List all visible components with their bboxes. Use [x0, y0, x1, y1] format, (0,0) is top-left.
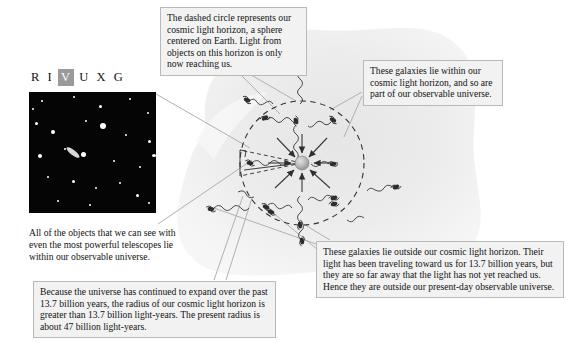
figure-canvas: R I V U X G The dashed cir [0, 0, 577, 343]
callout-galaxies-inside-horizon: These galaxies lie within our cosmic lig… [363, 60, 503, 106]
wavelength-band-rivuxg: R I V U X G [29, 69, 126, 86]
band-letter-u: U [77, 70, 91, 85]
callout-cosmic-light-horizon: The dashed circle represents our cosmic … [160, 7, 307, 76]
deep-field-photo [29, 92, 156, 213]
callout-universe-expansion: Because the universe has continued to ex… [33, 281, 276, 338]
band-letter-v-highlighted: V [58, 69, 74, 86]
callout-galaxies-outside-horizon: These galaxies lie outside our cosmic li… [316, 241, 564, 298]
band-letter-x: X [94, 70, 108, 85]
band-letter-r: R [29, 70, 43, 85]
earth-sphere [295, 156, 309, 170]
band-letter-g: G [112, 70, 126, 85]
band-letter-i: I [46, 70, 55, 85]
caption-deep-field-photo: All of the objects that we can see with … [29, 227, 179, 262]
